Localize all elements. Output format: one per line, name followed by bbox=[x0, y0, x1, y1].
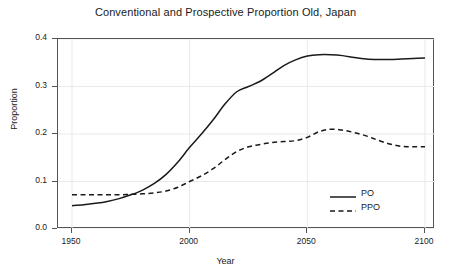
y-axis-tick-label: 0.3 bbox=[21, 80, 47, 90]
legend: POPPO bbox=[330, 186, 410, 214]
chart-container: Conventional and Prospective Proportion … bbox=[0, 0, 451, 276]
chart-title: Conventional and Prospective Proportion … bbox=[0, 6, 451, 18]
y-axis-tick-label: 0.1 bbox=[21, 175, 47, 185]
legend-item-ppo: PPO bbox=[330, 200, 410, 214]
legend-label: PO bbox=[361, 188, 374, 198]
x-axis-tick-label: 2050 bbox=[286, 236, 326, 246]
x-axis-tick-label: 2100 bbox=[404, 236, 444, 246]
y-axis-tick-mark bbox=[52, 228, 57, 229]
x-axis-label: Year bbox=[0, 256, 451, 266]
series-line-ppo bbox=[72, 129, 425, 195]
series-line-po bbox=[72, 55, 425, 206]
y-axis-tick-label: 0.4 bbox=[21, 32, 47, 42]
legend-label: PPO bbox=[361, 202, 380, 212]
series-lines bbox=[72, 55, 425, 206]
y-axis-tick-label: 0.2 bbox=[21, 127, 47, 137]
y-axis-tick-label: 0.0 bbox=[21, 222, 47, 232]
y-axis-label: Proportion bbox=[9, 59, 19, 159]
legend-swatch-dashed-icon bbox=[330, 202, 356, 212]
legend-swatch-solid-icon bbox=[330, 188, 356, 198]
x-axis-tick-label: 2000 bbox=[169, 236, 209, 246]
legend-item-po: PO bbox=[330, 186, 410, 200]
x-axis-tick-label: 1950 bbox=[51, 236, 91, 246]
